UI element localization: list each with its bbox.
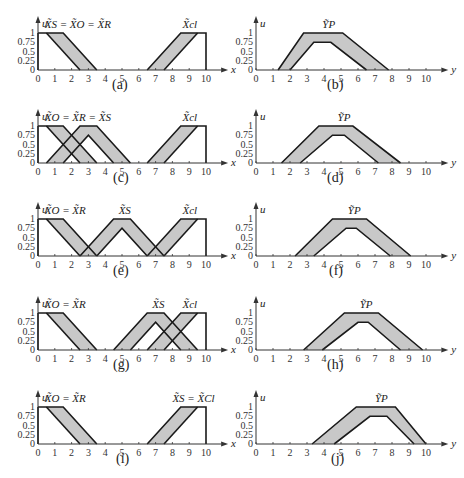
label-a: (a) <box>112 77 128 93</box>
svg-text:6: 6 <box>136 447 141 458</box>
set-label: X̃S <box>151 298 165 310</box>
label-g: (g) <box>113 357 129 373</box>
set-label: X̃S <box>118 204 132 216</box>
y-axis-arrow-icon <box>254 109 259 116</box>
svg-text:0: 0 <box>254 353 259 364</box>
svg-text:2: 2 <box>69 259 74 270</box>
x-axis-arrow-icon <box>441 161 448 166</box>
y-axis-arrow-icon <box>36 296 41 303</box>
x-axis-arrow-icon <box>221 68 228 73</box>
set-label: X̃cl <box>181 298 197 310</box>
svg-text:1: 1 <box>52 166 57 177</box>
set-label: X̃cl <box>181 204 197 216</box>
svg-text:0: 0 <box>36 353 41 364</box>
fou-fill <box>304 313 423 350</box>
svg-text:2: 2 <box>288 73 293 84</box>
svg-text:1: 1 <box>271 73 276 84</box>
svg-text:4: 4 <box>322 259 327 270</box>
svg-text:1: 1 <box>248 120 253 131</box>
svg-text:1: 1 <box>52 73 57 84</box>
label-i: (i) <box>116 451 129 467</box>
label-c: (c) <box>113 170 129 186</box>
svg-text:1: 1 <box>30 307 35 318</box>
svg-text:1: 1 <box>30 120 35 131</box>
svg-text:10: 10 <box>201 259 211 270</box>
panel-c: xu01234567891000.250.50.751X̃O = X̃R = X… <box>18 109 237 177</box>
set-label: X̃O = X̃R <box>44 392 86 404</box>
svg-text:0: 0 <box>36 447 41 458</box>
set-label: ỸP <box>322 18 335 30</box>
x-axis-arrow-icon <box>221 442 228 447</box>
set-label: X̃S = X̃Cl <box>171 392 214 404</box>
set-label: X̃O = X̃R <box>44 298 86 310</box>
svg-text:9: 9 <box>407 166 412 177</box>
svg-text:8: 8 <box>390 259 395 270</box>
svg-text:2: 2 <box>69 447 74 458</box>
svg-text:1: 1 <box>271 259 276 270</box>
svg-text:1: 1 <box>52 447 57 458</box>
svg-text:8: 8 <box>390 353 395 364</box>
fou-fill <box>147 407 197 444</box>
svg-text:y: y <box>450 343 456 355</box>
svg-text:7: 7 <box>153 166 158 177</box>
set-label: X̃O = X̃R <box>44 204 86 216</box>
set-label: X̃cl <box>181 111 197 123</box>
panel-g: xu01234567891000.250.50.751X̃O = X̃RX̃SX… <box>18 296 237 364</box>
svg-text:0: 0 <box>254 259 259 270</box>
svg-text:3: 3 <box>86 73 91 84</box>
svg-text:7: 7 <box>153 353 158 364</box>
set-label: ỸP <box>375 392 388 404</box>
svg-text:1: 1 <box>248 307 253 318</box>
svg-text:3: 3 <box>86 259 91 270</box>
svg-text:10: 10 <box>421 447 431 458</box>
svg-text:y: y <box>450 156 456 168</box>
svg-text:2: 2 <box>288 259 293 270</box>
x-axis-arrow-icon <box>441 68 448 73</box>
svg-text:2: 2 <box>288 353 293 364</box>
svg-text:10: 10 <box>201 166 211 177</box>
panel-a: xu01234567891000.250.50.751X̃S = X̃O = X… <box>18 16 237 84</box>
svg-text:10: 10 <box>421 73 431 84</box>
svg-text:0: 0 <box>36 166 41 177</box>
svg-text:1: 1 <box>271 353 276 364</box>
svg-text:6: 6 <box>356 447 361 458</box>
x-axis-arrow-icon <box>221 161 228 166</box>
svg-text:10: 10 <box>421 353 431 364</box>
panel-b: yu01234567891000.250.50.751ỸP <box>236 16 457 84</box>
svg-text:7: 7 <box>153 447 158 458</box>
svg-text:6: 6 <box>356 73 361 84</box>
svg-text:8: 8 <box>390 447 395 458</box>
figure-grid: xu01234567891000.250.50.751X̃S = X̃O = X… <box>0 0 464 478</box>
set-label: X̃O = X̃R = X̃S <box>44 111 112 123</box>
svg-text:7: 7 <box>373 259 378 270</box>
svg-text:10: 10 <box>201 73 211 84</box>
svg-text:7: 7 <box>153 259 158 270</box>
svg-text:4: 4 <box>103 353 108 364</box>
svg-text:9: 9 <box>187 259 192 270</box>
svg-text:0: 0 <box>254 166 259 177</box>
svg-text:8: 8 <box>170 73 175 84</box>
svg-text:8: 8 <box>170 259 175 270</box>
label-e: (e) <box>113 263 129 279</box>
x-axis-arrow-icon <box>441 254 448 259</box>
svg-text:1: 1 <box>248 213 253 224</box>
svg-text:9: 9 <box>407 447 412 458</box>
svg-text:10: 10 <box>421 166 431 177</box>
panel-h: yu01234567891000.250.50.751ỸP <box>236 296 457 364</box>
x-axis-arrow-icon <box>441 348 448 353</box>
svg-text:0: 0 <box>36 259 41 270</box>
svg-text:10: 10 <box>201 447 211 458</box>
svg-text:2: 2 <box>69 73 74 84</box>
svg-text:3: 3 <box>86 353 91 364</box>
svg-text:9: 9 <box>187 353 192 364</box>
svg-text:1: 1 <box>30 27 35 38</box>
svg-text:y: y <box>450 63 456 75</box>
svg-text:u: u <box>260 297 266 309</box>
svg-text:y: y <box>450 437 456 449</box>
y-axis-arrow-icon <box>254 390 259 397</box>
svg-text:3: 3 <box>86 447 91 458</box>
svg-text:4: 4 <box>322 166 327 177</box>
panel-j: yu01234567891000.250.50.751ỸP <box>236 390 457 458</box>
svg-text:9: 9 <box>187 447 192 458</box>
svg-text:7: 7 <box>373 353 378 364</box>
